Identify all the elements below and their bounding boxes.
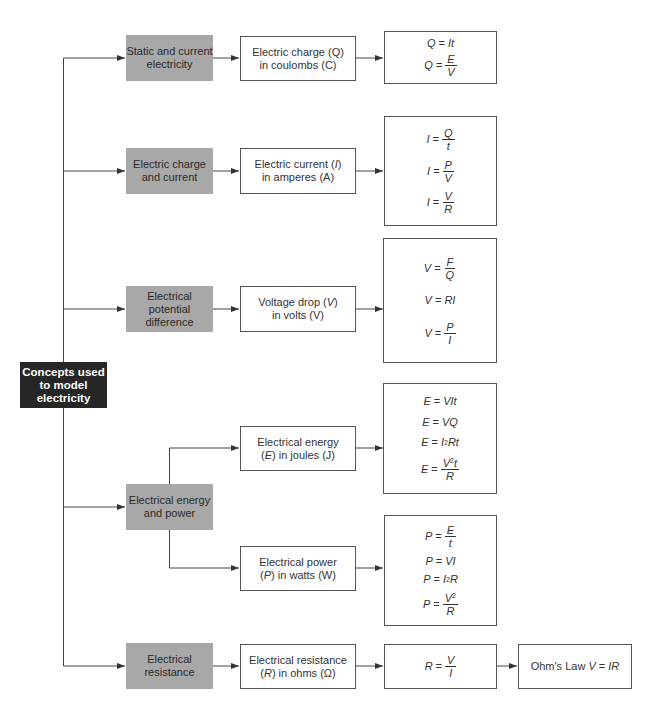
formulas-voltage: V= FQ V=RI V= PI xyxy=(383,238,497,363)
category-label: Electrical potential xyxy=(126,290,213,316)
ohms-law-box: Ohm's Law V = IR xyxy=(518,644,632,689)
category-static-current-electricity: Static and current electricity xyxy=(126,35,213,81)
formula-e-vit: E=VIt xyxy=(423,395,456,408)
quantity-unit: in amperes (A) xyxy=(255,171,342,184)
formula-v-f-over-q: V= FQ xyxy=(424,256,456,281)
quantity-line: Voltage drop (V) xyxy=(258,296,338,309)
formula-i-q-over-t: I= Qt xyxy=(426,127,454,152)
category-label: Static and current xyxy=(126,45,212,58)
quantity-electrical-resistance: Electrical resistance (R) in ohms (Ω) xyxy=(240,644,356,689)
formula-e-v2t-over-r: E= V2tR xyxy=(421,457,459,482)
category-electrical-potential-difference: Electrical potential difference xyxy=(126,286,213,332)
formula-e-i2rt: E=I2Rt xyxy=(421,436,459,449)
root-label-line: electricity xyxy=(22,392,104,405)
quantity-electric-current: Electric current (I) in amperes (A) xyxy=(240,148,356,194)
quantity-unit: (R) in ohms (Ω) xyxy=(249,667,347,680)
quantity-unit: in volts (V) xyxy=(258,309,338,322)
formula-v-ri: V=RI xyxy=(425,294,456,307)
category-electrical-energy-power: Electrical energy and power xyxy=(126,484,213,530)
formulas-current: I= Qt I= PV I= VR xyxy=(384,116,497,226)
formula-q-it: Q=It xyxy=(427,37,454,50)
formulas-resistance: R= VI xyxy=(384,644,497,689)
formula-p-e-over-t: P= Et xyxy=(425,524,456,549)
formula-i-p-over-v: I= PV xyxy=(427,159,454,184)
formula-q-e-over-v: Q= EV xyxy=(424,53,456,78)
category-electrical-resistance: Electrical resistance xyxy=(126,643,213,689)
quantity-line: Electrical resistance xyxy=(249,654,347,667)
quantity-line: Electrical energy xyxy=(257,436,338,449)
quantity-electric-charge: Electric charge (Q) in coulombs (C) xyxy=(240,36,356,81)
quantity-electrical-power: Electrical power (P) in watts (W) xyxy=(240,546,356,591)
formulas-power: P= Et P=VI P=I2R P= V2R xyxy=(384,515,497,626)
category-label: difference xyxy=(126,316,213,329)
formulas-charge: Q=It Q= EV xyxy=(384,31,497,84)
category-label: and current xyxy=(133,171,206,184)
formula-v-p-over-i: V= PI xyxy=(424,321,455,346)
connector-lines xyxy=(0,0,656,717)
quantity-unit: (P) in watts (W) xyxy=(259,569,337,582)
category-label: Electrical energy xyxy=(129,494,210,507)
formula-i-v-over-r: I= VR xyxy=(427,190,454,215)
formula-p-vi: P=VI xyxy=(425,555,455,568)
concept-map: Concepts used to model electricity Stati… xyxy=(0,0,656,717)
category-label: electricity xyxy=(126,58,212,71)
quantity-unit: in coulombs (C) xyxy=(252,59,344,72)
formula-p-i2r: P=I2R xyxy=(423,573,458,586)
quantity-line: Electric current (I) xyxy=(255,158,342,171)
root-concepts-box: Concepts used to model electricity xyxy=(20,362,107,408)
root-label-line: to model xyxy=(22,379,104,392)
category-label: and power xyxy=(129,507,210,520)
formula-r-v-over-i: R= VI xyxy=(425,654,457,679)
category-label: Electric charge xyxy=(133,158,206,171)
quantity-line: Electric charge (Q) xyxy=(252,46,344,59)
ohms-law-text: Ohm's Law V = IR xyxy=(531,660,620,673)
quantity-electrical-energy: Electrical energy (E) in joules (J) xyxy=(240,426,356,471)
formula-p-v2-over-r: P= V2R xyxy=(423,592,458,617)
category-label: Electrical xyxy=(144,653,194,666)
formula-e-vq: E=VQ xyxy=(422,416,458,429)
formulas-energy: E=VIt E=VQ E=I2Rt E= V2tR xyxy=(383,383,497,494)
quantity-voltage-drop: Voltage drop (V) in volts (V) xyxy=(240,286,356,332)
quantity-line: Electrical power xyxy=(259,556,337,569)
category-label: resistance xyxy=(144,666,194,679)
quantity-unit: (E) in joules (J) xyxy=(257,449,338,462)
category-electric-charge-current: Electric charge and current xyxy=(126,148,213,194)
root-label-line: Concepts used xyxy=(22,366,104,379)
